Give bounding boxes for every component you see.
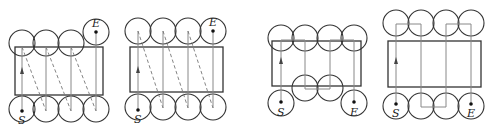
direction-arrow (136, 66, 140, 73)
return-path (22, 47, 46, 111)
end-label: E (91, 17, 100, 30)
end-label: E (466, 107, 475, 120)
return-path (46, 47, 71, 111)
end-point (469, 102, 473, 106)
coverage-diagram: S E S E (0, 0, 491, 133)
direction-arrow (394, 57, 398, 64)
return-path (138, 31, 163, 108)
start-label: S (392, 107, 400, 120)
panel-c: S E (268, 25, 367, 119)
end-label: E (208, 16, 217, 29)
return-path (188, 31, 213, 108)
start-label: S (18, 114, 26, 127)
direction-arrow (279, 57, 283, 64)
end-label: E (349, 106, 358, 119)
panel-d: S E (383, 10, 484, 120)
end-point (94, 30, 98, 34)
return-path (71, 47, 96, 111)
end-point (352, 100, 356, 104)
start-point (394, 102, 398, 106)
boustrophedon-path (396, 24, 471, 107)
end-point (211, 29, 215, 33)
area-rectangle (388, 41, 481, 87)
start-point (20, 109, 24, 113)
start-label: S (277, 106, 285, 119)
return-path (163, 31, 188, 108)
start-point (136, 108, 140, 112)
panel-b: S E (125, 16, 226, 126)
panel-a: S E (9, 17, 109, 127)
direction-arrow (20, 67, 24, 74)
start-label: S (134, 113, 142, 126)
area-rectangle (272, 41, 361, 86)
start-point (279, 100, 283, 104)
area-rectangle (130, 47, 223, 92)
